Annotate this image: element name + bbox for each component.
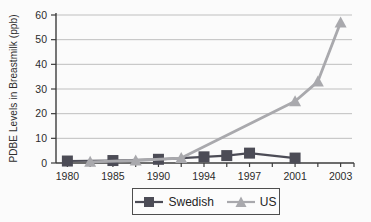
legend-item-us: US [227,195,277,209]
chart-plot-area: 0102030405060198019851990199419972001200… [0,0,371,186]
data-point-us [335,16,347,27]
x-tick-label: 1985 [101,170,125,182]
data-point-swedish [244,148,255,159]
data-point-swedish [221,150,232,161]
x-tick-label: 2003 [329,170,353,182]
data-point-us [312,76,324,87]
y-tick-label: 0 [41,157,47,169]
x-tick-label: 2001 [283,170,307,182]
y-tick-label: 50 [35,33,47,45]
us-series-marker-icon [227,196,255,208]
series-line-us [90,22,340,161]
legend-label-swedish: Swedish [168,195,213,209]
y-tick-label: 60 [35,9,47,21]
x-tick-label: 1980 [56,170,80,182]
pbde-breastmilk-chart: PDBE Levels in Breastmilk (ppb) 01020304… [0,0,371,222]
legend-item-swedish: Swedish [135,195,213,209]
data-point-swedish [199,151,210,162]
swedish-series-marker-icon [135,196,163,208]
x-tick-label: 1997 [238,170,262,182]
chart-legend: Swedish US [132,188,280,215]
data-point-swedish [290,153,301,164]
x-tick-label: 1990 [147,170,171,182]
y-tick-label: 30 [35,83,47,95]
y-tick-label: 10 [35,132,47,144]
y-tick-label: 40 [35,58,47,70]
y-tick-label: 20 [35,107,47,119]
legend-label-us: US [260,195,277,209]
data-point-swedish [62,156,73,167]
x-tick-label: 1994 [192,170,216,182]
